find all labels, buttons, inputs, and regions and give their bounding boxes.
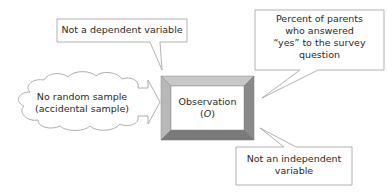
callout-bottom-line-1: Not an independent bbox=[236, 153, 352, 165]
observation-title: Observation bbox=[171, 96, 244, 108]
cloud-line-1: No random sample bbox=[26, 91, 138, 103]
observation-symbol: O bbox=[204, 108, 211, 119]
callout-bottom-text: Not an independent variable bbox=[236, 153, 352, 177]
callout-bottom-line-2: variable bbox=[236, 165, 352, 177]
callout-right-line-4: question bbox=[255, 49, 384, 61]
observation-symbol-wrap: (O) bbox=[171, 108, 244, 120]
cloud-text: No random sample (accidental sample) bbox=[26, 91, 138, 115]
callout-top-text: Not a dependent variable bbox=[57, 24, 187, 36]
cloud-line-2: (accidental sample) bbox=[26, 103, 138, 115]
callout-right-line-3: “yes” to the survey bbox=[255, 37, 384, 49]
callout-right-line-1: Percent of parents bbox=[255, 13, 384, 25]
callout-right-text: Percent of parents who answered “yes” to… bbox=[255, 13, 384, 61]
callout-right-line-2: who answered bbox=[255, 25, 384, 37]
observation-label: Observation (O) bbox=[171, 96, 244, 120]
